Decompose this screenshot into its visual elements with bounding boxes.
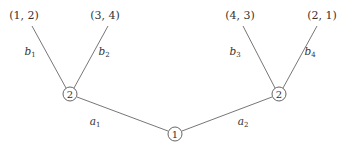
- edge-label-subscript: 1: [31, 51, 35, 59]
- edge-label-subscript: 2: [105, 51, 109, 59]
- game-tree-diagram: a1a2b1b2b3b4 122 (1, 2)(3, 4)(4, 3)(2, 1…: [0, 0, 346, 149]
- leaf-payoffs: (1, 2)(3, 4)(4, 3)(2, 1): [9, 9, 337, 22]
- payoff-leaf4: (2, 1): [307, 9, 337, 22]
- payoff-leaf3: (4, 3): [225, 9, 255, 22]
- nodes: 122: [63, 87, 286, 141]
- edge-label-subscript: 4: [311, 51, 316, 59]
- edge-label-b1: b1: [24, 45, 35, 59]
- decision-node-root: 1: [168, 127, 182, 141]
- edge-b1: [32, 26, 66, 88]
- payoff-leaf1: (1, 2): [9, 9, 39, 22]
- edges: [32, 26, 317, 131]
- edge-label-subscript: 2: [244, 121, 248, 129]
- edge-label-b2: b2: [98, 45, 109, 59]
- edge-label-b3: b3: [229, 45, 240, 59]
- edge-a2: [182, 97, 272, 131]
- edge-label-subscript: 1: [96, 121, 100, 129]
- decision-node-left: 2: [63, 87, 77, 101]
- edge-label-a2: a2: [238, 115, 249, 129]
- payoff-leaf2: (3, 4): [90, 9, 120, 22]
- edge-label-subscript: 3: [236, 51, 240, 59]
- edge-label-b4: b4: [304, 45, 316, 59]
- node-player-label: 2: [67, 89, 73, 100]
- node-player-label: 1: [172, 129, 178, 140]
- decision-node-right: 2: [272, 87, 286, 101]
- edge-label-a1: a1: [90, 115, 101, 129]
- node-player-label: 2: [276, 89, 282, 100]
- edge-b3: [243, 26, 275, 88]
- edge-b2: [74, 26, 108, 88]
